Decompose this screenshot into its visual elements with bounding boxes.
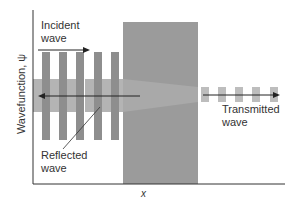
tunneling-diagram: Wavefunction, ψ x Incident wave Reflecte… [0, 0, 298, 203]
reflected-wave-label: Reflected wave [41, 149, 87, 175]
transmitted-wave-label: Transmitted wave [222, 103, 280, 129]
incident-wave-label: Incident wave [41, 19, 80, 45]
y-axis-label: Wavefunction, ψ [15, 39, 27, 149]
x-axis-label: x [141, 188, 146, 199]
